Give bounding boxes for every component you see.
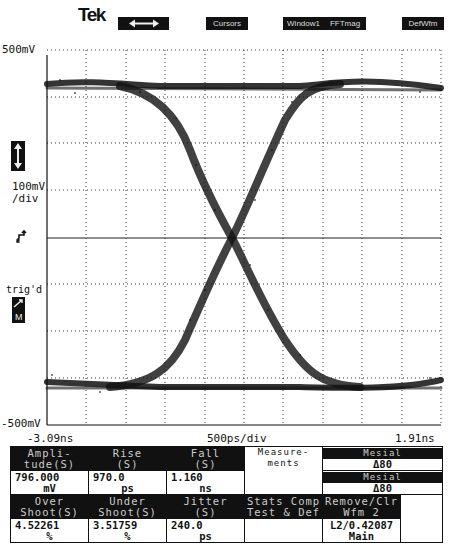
mesial-reference-1[interactable]: Mesial Δ80 [323,447,443,471]
rise-value: 970.0 ps [89,471,167,495]
mesial-label-2: Mesial [323,472,442,483]
measurement-table: Ampli- tude(S) Rise (S) Fall (S) Measure… [10,446,443,543]
stats-value-empty [245,519,323,543]
overshoot-value: 4.52261 % [11,519,89,543]
jitter-value: 240.0 ps [167,519,245,543]
undershoot-value: 3.51759 % [89,519,167,543]
mesial-value-2: Δ80 [323,483,442,494]
empty-cell [401,495,443,543]
mesial-label-1: Mesial [323,448,442,459]
fall-value: 1.160 ns [167,471,245,495]
mesial-value-1: Δ80 [323,459,442,470]
overshoot-measure-button[interactable]: Over Shoot(S) [11,495,89,519]
fall-measure-button[interactable]: Fall (S) [167,447,245,471]
rise-measure-button[interactable]: Rise (S) [89,447,167,471]
remove-wfm-value: L2/0.42087 Main [323,519,401,543]
stats-comp-test-def-button[interactable]: Stats Comp Test & Def [245,495,323,519]
jitter-measure-button[interactable]: Jitter (S) [167,495,245,519]
amplitude-measure-button[interactable]: Ampli- tude(S) [11,447,89,471]
waveform-display[interactable] [0,0,452,440]
measurements-menu-button[interactable]: Measure- ments [245,447,323,495]
mesial-reference-2[interactable]: Mesial Δ80 [323,471,443,495]
undershoot-measure-button[interactable]: Under Shoot(S) [89,495,167,519]
remove-clear-measurement-button[interactable]: Remove/Clr Wfm 2 [323,495,401,519]
noise-dots [51,79,431,393]
amplitude-value: 796.000 mV [11,471,89,495]
